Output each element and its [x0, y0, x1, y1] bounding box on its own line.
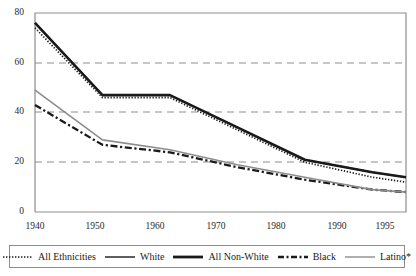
series-line-white — [35, 23, 406, 177]
dash-dot-line-swatch — [278, 253, 308, 261]
gray-solid-line-swatch — [345, 253, 375, 261]
chart-legend: All Ethnicities White All Non-White Blac… — [9, 245, 405, 268]
dotted-line-swatch — [3, 253, 33, 261]
legend-item-all-ethnicities: All Ethnicities — [3, 252, 96, 262]
plot-area — [0, 0, 416, 276]
thick-solid-line-swatch — [173, 253, 203, 261]
legend-item-white: White — [105, 252, 164, 262]
legend-label-all-ethnicities: All Ethnicities — [38, 252, 96, 262]
line-chart: 80 60 40 20 0 1940 1950 1960 1970 1980 1… — [0, 0, 416, 276]
series-line-all-non-white — [35, 23, 406, 177]
legend-item-all-non-white: All Non-White — [173, 252, 268, 262]
thin-solid-line-swatch — [105, 253, 135, 261]
series-line-latino — [35, 90, 406, 192]
legend-label-all-non-white: All Non-White — [208, 252, 268, 262]
legend-label-latino: Latino* — [380, 252, 411, 262]
legend-item-latino: Latino* — [345, 252, 411, 262]
legend-item-black: Black — [278, 252, 336, 262]
legend-label-black: Black — [313, 252, 336, 262]
legend-label-white: White — [140, 252, 164, 262]
series-line-all-ethnicities — [35, 28, 406, 182]
